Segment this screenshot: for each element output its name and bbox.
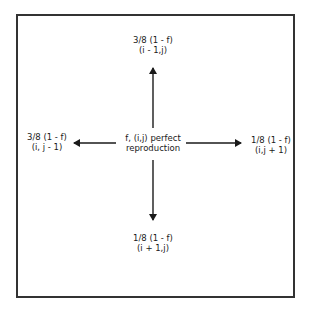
left-label-line1: 3/8 (1 - f): [20, 132, 74, 142]
center-label-line2: reproduction: [113, 143, 193, 153]
bottom-label: 1/8 (1 - f) (i + 1,j): [123, 233, 183, 253]
right-label: 1/8 (1 - f) (i,j + 1): [244, 135, 298, 155]
bottom-label-line2: (i + 1,j): [123, 243, 183, 253]
right-label-line2: (i,j + 1): [244, 145, 298, 155]
bottom-label-line1: 1/8 (1 - f): [123, 233, 183, 243]
top-label-line1: 3/8 (1 - f): [123, 35, 183, 45]
left-label-line2: (i, j - 1): [20, 142, 74, 152]
center-label: f, (i,j) perfect reproduction: [113, 133, 193, 153]
left-label: 3/8 (1 - f) (i, j - 1): [20, 132, 74, 152]
right-label-line1: 1/8 (1 - f): [244, 135, 298, 145]
center-label-line1: f, (i,j) perfect: [113, 133, 193, 143]
top-label: 3/8 (1 - f) (i - 1,j): [123, 35, 183, 55]
top-label-line2: (i - 1,j): [123, 45, 183, 55]
